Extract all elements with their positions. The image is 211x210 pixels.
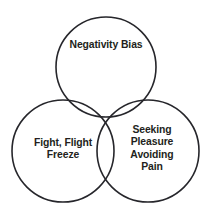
circle-label-seeking-pleasure-avoiding-pain: Seeking Pleasure Avoiding Pain [111,124,193,173]
venn-diagram-graphic [0,0,211,210]
circle-label-negativity-bias: Negativity Bias [51,39,161,51]
venn-diagram-canvas: Negativity Bias Fight, Flight Freeze See… [0,0,211,210]
circle-negativity-bias [56,17,156,117]
circle-label-fight-flight-freeze: Fight, Flight Freeze [13,137,113,162]
